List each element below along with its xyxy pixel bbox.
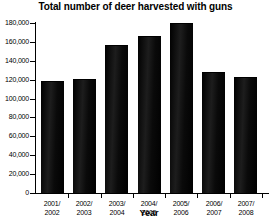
x-axis-tick [230,194,231,198]
y-axis-tick-label: 160,000 [0,38,29,45]
x-axis-tick [68,194,69,198]
bar [234,77,257,193]
y-axis-tick [30,117,35,118]
x-axis-tick-label-line: 2007/ [224,200,268,209]
x-axis-tick-label: 2007/2008 [224,200,268,217]
chart-title: Total number of deer harvested with guns [0,1,271,13]
y-axis-tick-label: 80,000 [0,113,29,120]
x-axis-line [35,193,269,194]
y-axis-tick-label: 20,000 [0,170,29,177]
y-axis-tick [30,155,35,156]
y-axis-tick-label-holder: 80,000 [0,113,29,121]
x-axis-tick [262,194,263,198]
y-axis-tick [30,80,35,81]
y-axis-tick [30,136,35,137]
bar [41,81,64,193]
y-axis-tick-labels: 180,000160,000140,000120,000100,00080,00… [0,0,36,223]
y-axis-tick-label-holder: 60,000 [0,132,29,140]
bar-chart-figure: Total number of deer harvested with guns… [0,0,271,223]
x-axis-tick-label-line: 2008 [224,209,268,218]
x-axis-tick [133,194,134,198]
y-axis-tick-label: 100,000 [0,95,29,102]
y-axis-tick [30,42,35,43]
bar [73,79,96,193]
x-axis-tick [101,194,102,198]
y-axis-tick-label: 140,000 [0,57,29,64]
y-axis-tick-label: 0 [0,189,29,196]
y-axis-tick-label-holder: 40,000 [0,151,29,159]
plot-area [36,23,262,193]
y-axis-tick-label-holder: 140,000 [0,57,29,65]
x-axis-tick [165,194,166,198]
bar [202,72,225,193]
y-axis-tick-label: 40,000 [0,151,29,158]
y-axis-tick-label-holder: 180,000 [0,19,29,27]
y-axis-tick [30,99,35,100]
x-axis-tick [197,194,198,198]
bar [170,23,193,193]
y-axis-tick [30,23,35,24]
y-axis-tick [30,61,35,62]
bar [138,36,161,193]
y-axis-tick-label: 120,000 [0,76,29,83]
y-axis-tick [30,174,35,175]
bar [105,45,128,193]
y-axis-tick-label-holder: 100,000 [0,95,29,103]
y-axis-tick-label-holder: 120,000 [0,76,29,84]
y-axis-tick-label-holder: 160,000 [0,38,29,46]
y-axis-tick-label-holder: 0 [0,189,29,197]
y-axis-tick-label: 60,000 [0,132,29,139]
y-axis-tick-label-holder: 20,000 [0,170,29,178]
y-axis-tick-label: 180,000 [0,19,29,26]
y-axis-tick [30,193,35,194]
